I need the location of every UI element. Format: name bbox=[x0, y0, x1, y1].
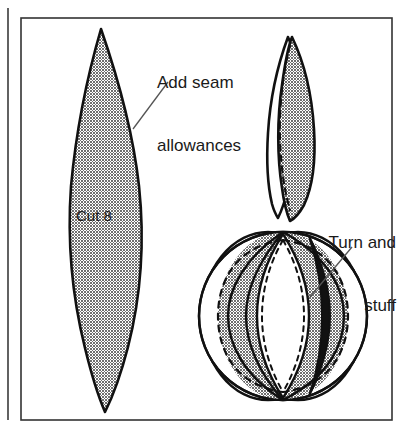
annotation-add-seam-allowances: Add seam allowances bbox=[157, 30, 241, 198]
annotation-seam-line2: allowances bbox=[157, 135, 241, 156]
diagram-canvas: Add seam allowances Turn and stuff Cut 8 bbox=[0, 0, 408, 441]
annotation-turn-line1: Turn and bbox=[296, 232, 396, 253]
annotation-cut-8: Cut 8 bbox=[76, 205, 112, 226]
annotation-turn-line2: stuff bbox=[296, 295, 396, 316]
annotation-turn-and-stuff: Turn and stuff bbox=[296, 190, 396, 358]
annotation-seam-line1: Add seam bbox=[157, 72, 241, 93]
